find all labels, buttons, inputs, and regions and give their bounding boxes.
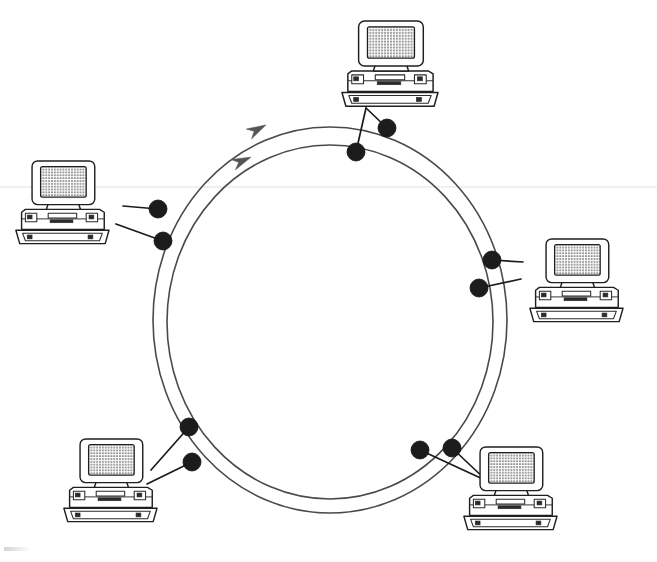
ring-node-group <box>149 119 501 471</box>
station-bottom-right[interactable] <box>464 447 557 530</box>
desktop-computer-icon[interactable] <box>464 447 557 530</box>
ring-node-icon[interactable] <box>411 441 429 459</box>
network-topology-figure <box>0 0 657 562</box>
desktop-computer-icon[interactable] <box>530 239 623 322</box>
flow-arrow-group <box>231 120 268 170</box>
ring-node-icon[interactable] <box>149 200 167 218</box>
station-bottom-left[interactable] <box>64 439 157 522</box>
desktop-computer-icon[interactable] <box>64 439 157 522</box>
desktop-computer-icon[interactable] <box>342 21 438 106</box>
ring-node-icon[interactable] <box>180 418 198 436</box>
flow-direction-arrow-icon <box>246 120 268 139</box>
ring-node-icon[interactable] <box>154 232 172 250</box>
station-top[interactable] <box>342 21 438 106</box>
station-tap-lines <box>116 108 523 484</box>
desktop-computer-icon[interactable] <box>16 161 109 244</box>
scan-artifact-smudge <box>4 547 30 551</box>
station-right[interactable] <box>530 239 623 322</box>
station-left[interactable] <box>16 161 109 244</box>
ring-node-icon[interactable] <box>483 251 501 269</box>
ring-node-icon[interactable] <box>470 279 488 297</box>
ring-node-icon[interactable] <box>183 453 201 471</box>
diagram-canvas <box>0 0 657 562</box>
ring-node-icon[interactable] <box>443 439 461 457</box>
ring-node-icon[interactable] <box>378 119 396 137</box>
ring-node-icon[interactable] <box>347 143 365 161</box>
